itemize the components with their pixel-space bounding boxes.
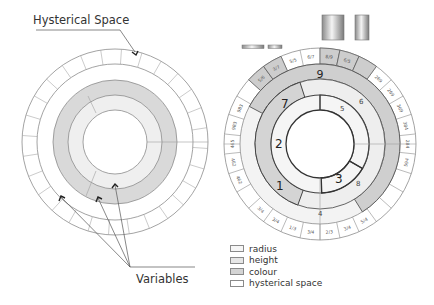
- segment-label: 2: [275, 137, 283, 151]
- segment-label: 3: [335, 172, 343, 186]
- height-cylinder-icon: [322, 15, 344, 40]
- outer-ring-value: 6/7: [307, 54, 315, 60]
- hysterical-space-label: Hysterical Space: [33, 13, 129, 27]
- legend: radius height colour hysterical space: [230, 243, 322, 289]
- band-label: 9: [317, 68, 324, 81]
- outer-ring-value: 3/4: [307, 229, 315, 235]
- legend-item-hysterical-space: hysterical space: [230, 278, 322, 290]
- left-circle-diagram: [22, 30, 208, 267]
- segment-label: 6: [359, 98, 364, 106]
- legend-swatch: [230, 280, 244, 287]
- radius-core: [83, 110, 147, 174]
- segment-label: 8: [356, 180, 360, 188]
- legend-label: colour: [249, 267, 277, 277]
- legend-swatch: [230, 257, 244, 264]
- legend-item-radius: radius: [230, 243, 322, 255]
- legend-swatch: [230, 245, 244, 252]
- radius-bar-icon: [242, 45, 264, 49]
- segment-label: 4: [318, 210, 323, 218]
- legend-label: radius: [249, 244, 277, 254]
- legend-item-height: height: [230, 255, 322, 267]
- legend-label: height: [249, 255, 278, 265]
- radius-bar-icon: [268, 45, 282, 49]
- outer-ring-value: 8/9: [325, 54, 333, 60]
- segment-label: 7: [281, 97, 289, 111]
- variables-label: Variables: [136, 272, 189, 286]
- diagram-canvas: 5/63/75/56/78/96/52692693693842845949839…: [0, 0, 434, 305]
- segment-label: 1: [276, 179, 284, 193]
- height-cylinder-icon: [355, 15, 369, 40]
- legend-label: hysterical space: [249, 278, 322, 288]
- legend-swatch: [230, 268, 244, 275]
- segment-label: 5: [340, 105, 344, 113]
- right-circle-diagram: 5/63/75/56/78/96/52692693693842845949839…: [224, 15, 416, 240]
- outer-ring-value: 2/3: [325, 229, 333, 235]
- legend-item-colour: colour: [230, 266, 322, 278]
